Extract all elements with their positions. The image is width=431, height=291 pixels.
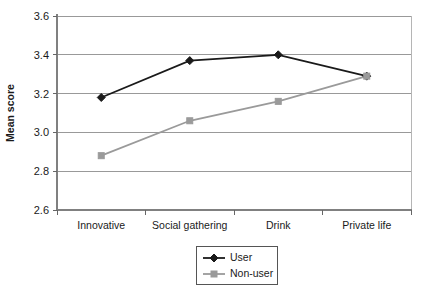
x-axis-category-label: Drink	[266, 219, 291, 231]
y-tick-label: 3.4	[34, 49, 49, 61]
data-point-non-user-2	[275, 98, 281, 104]
y-tick-label: 2.6	[34, 204, 49, 216]
y-tick-label: 3.0	[34, 126, 49, 138]
chart-container: 2.62.83.03.23.43.6 InnovativeSocial gath…	[0, 0, 431, 291]
data-point-non-user-1	[187, 118, 193, 124]
x-axis-category-label: Innovative	[77, 219, 125, 231]
x-axis-category-label: Social gathering	[152, 219, 227, 231]
data-point-non-user-3	[364, 73, 370, 79]
y-tick-label: 2.8	[34, 165, 49, 177]
y-axis-title: Mean score	[4, 84, 16, 142]
y-tick-label: 3.2	[34, 88, 49, 100]
x-axis-category-labels-group: InnovativeSocial gatheringDrinkPrivate l…	[77, 219, 391, 231]
x-axis-ticks-group	[57, 210, 411, 215]
x-axis-category-label: Private life	[342, 219, 391, 231]
legend-label-non-user: Non-user	[230, 267, 274, 279]
legend-marker-non-user	[211, 271, 217, 277]
data-point-non-user-0	[98, 153, 104, 159]
chart-legend: UserNon-user	[197, 247, 278, 285]
y-axis-ticks-group: 2.62.83.03.23.43.6	[34, 10, 57, 216]
y-tick-label: 3.6	[34, 10, 49, 22]
legend-label-user: User	[230, 251, 253, 263]
line-chart: 2.62.83.03.23.43.6 InnovativeSocial gath…	[0, 0, 431, 291]
plot-area-background	[57, 16, 411, 210]
